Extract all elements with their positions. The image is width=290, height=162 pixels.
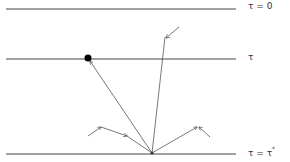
label-tau-star-main: τ = τ: [248, 148, 272, 158]
observation-point: [85, 55, 92, 62]
incoming-arrow-left-a: [88, 127, 101, 136]
ray-ground-to-point: [90, 61, 152, 153]
label-tau-star: τ = τ*: [248, 146, 275, 158]
ray-ground-to-right: [152, 127, 197, 153]
incoming-arrow-left-b: [101, 127, 127, 136]
ray-left-to-ground: [127, 136, 152, 153]
incoming-arrow-right: [199, 127, 210, 137]
label-tau-star-sup: *: [272, 145, 275, 152]
label-tau-zero: τ = 0: [248, 1, 272, 11]
incoming-arrow-top: [166, 27, 179, 38]
diagram-canvas: [0, 0, 290, 162]
ray-ground-to-top: [152, 37, 165, 153]
ground-point: [151, 152, 154, 155]
label-tau: τ: [248, 52, 253, 62]
